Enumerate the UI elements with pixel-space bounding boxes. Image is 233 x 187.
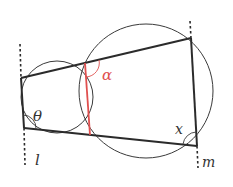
label-x: x xyxy=(175,121,183,137)
label-m: m xyxy=(202,154,215,170)
edge-q1-q2 xyxy=(191,38,197,146)
edge-p2-q2 xyxy=(24,128,197,146)
line-m-lower xyxy=(197,146,198,168)
label-theta: θ xyxy=(33,107,42,125)
line-l-lower xyxy=(24,128,25,165)
label-alpha: α xyxy=(102,66,112,84)
geometry-diagram: θ α x l m xyxy=(0,0,233,187)
line-m-upper xyxy=(190,21,191,38)
large-circle xyxy=(79,24,213,158)
label-l: l xyxy=(35,151,40,169)
line-l-upper xyxy=(20,44,21,78)
